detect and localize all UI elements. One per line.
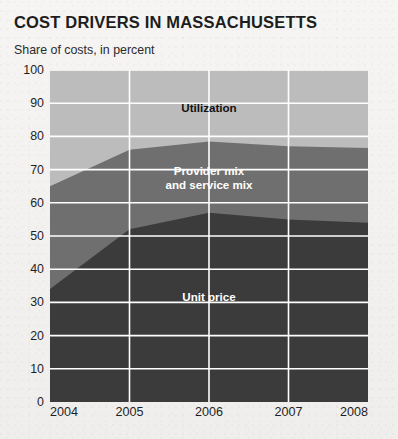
y-tick-label-80: 80 (10, 130, 44, 142)
x-tick-label-2007: 2007 (274, 406, 302, 419)
y-tick-label-50: 50 (10, 230, 44, 242)
x-axis: 20042005200620072008 (50, 406, 368, 426)
y-tick-label-30: 30 (10, 296, 44, 308)
y-tick-label-60: 60 (10, 197, 44, 209)
y-tick-label-100: 100 (10, 64, 44, 76)
y-tick-label-70: 70 (10, 163, 44, 175)
x-tick-label-2008: 2008 (340, 406, 368, 419)
chart-subtitle: Share of costs, in percent (14, 44, 155, 56)
y-tick-label-90: 90 (10, 97, 44, 109)
stacked-area-chart (50, 70, 368, 402)
y-tick-label-10: 10 (10, 363, 44, 375)
y-tick-label-0: 0 (10, 396, 44, 408)
x-tick-label-2005: 2005 (115, 406, 143, 419)
x-tick-label-2004: 2004 (50, 406, 78, 419)
chart-title: COST DRIVERS IN MASSACHUSETTS (14, 14, 317, 31)
chart-svg (50, 70, 368, 402)
y-tick-label-40: 40 (10, 263, 44, 275)
y-axis: 0102030405060708090100 (8, 70, 44, 402)
plot-area: Utilization Provider mix and service mix… (50, 70, 368, 402)
x-tick-label-2006: 2006 (195, 406, 223, 419)
y-tick-label-20: 20 (10, 329, 44, 341)
